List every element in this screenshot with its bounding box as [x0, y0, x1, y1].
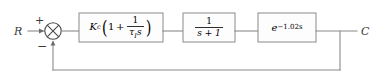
process-fraction-numerator: 1 — [204, 17, 214, 27]
process-fraction-denominator: s + 1 — [195, 27, 223, 38]
delay-formula: e−1.02s — [258, 13, 316, 42]
input-label-R: R — [14, 26, 22, 37]
controller-gain-subscript: c — [97, 24, 101, 31]
controller-gain-symbol: K — [90, 22, 97, 32]
controller-plus: + — [116, 22, 124, 32]
output-label-C: C — [361, 26, 369, 37]
summing-junction-plus-sign: + — [35, 15, 44, 26]
controller-fraction-numerator: 1 — [131, 16, 141, 26]
controller-fraction-denominator: τIs — [127, 26, 143, 39]
process-formula: 1 s + 1 — [183, 13, 235, 42]
paren-open: ( — [102, 20, 107, 35]
exponential-exponent: −1.02s — [277, 24, 302, 31]
laplace-variable: s — [137, 27, 142, 37]
summing-junction-minus-sign: − — [37, 40, 47, 52]
paren-close: ) — [146, 20, 151, 35]
pi-controller-formula: Kc ( 1 + 1 τIs ) — [79, 13, 163, 42]
controller-one: 1 — [108, 22, 114, 32]
process-fraction: 1 s + 1 — [195, 17, 223, 38]
wire-input-to-sum — [28, 29, 44, 34]
summing-junction — [45, 23, 61, 39]
controller-fraction: 1 τIs — [127, 16, 143, 39]
block-diagram-canvas: R C + − Kc ( 1 + 1 τIs ) 1 s + 1 e−1.02s — [0, 0, 377, 81]
